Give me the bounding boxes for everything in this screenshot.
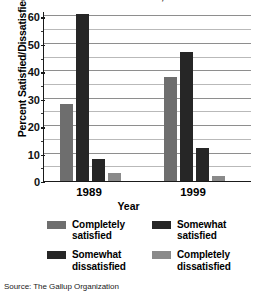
y-tick-label: 30 (12, 95, 40, 106)
legend-item[interactable]: Somewhatdissatisfied (47, 249, 140, 271)
bar (212, 176, 225, 181)
legend-swatch-icon (152, 251, 171, 259)
y-tick-label: 50 (12, 40, 40, 51)
y-tick-label: 60 (12, 12, 40, 23)
legend-swatch-icon (152, 221, 171, 229)
legend-label: Completelysatisfied (72, 219, 125, 241)
chart-title: Percent Satisfied/Dissatisfied, 1989 vs.… (0, 0, 257, 2)
bar (196, 148, 209, 181)
legend-item[interactable]: Completelysatisfied (47, 219, 140, 241)
bar (92, 159, 105, 181)
chart-figure: Percent Satisfied/Dissatisfied, 1989 vs.… (0, 0, 257, 298)
y-tick-label: 20 (12, 122, 40, 133)
y-tick-label: 10 (12, 150, 40, 161)
bar (108, 173, 121, 181)
legend-swatch-icon (47, 251, 66, 259)
legend-label: Completelydissatisfied (177, 249, 231, 271)
y-tick-label: 0 (12, 177, 40, 188)
bar (76, 14, 89, 181)
x-axis-group-label: 1989 (59, 186, 119, 198)
y-tick-label: 40 (12, 67, 40, 78)
bar (60, 104, 73, 181)
legend-swatch-icon (47, 221, 66, 229)
source-note: Source: The Gallup Organization (4, 282, 119, 291)
legend-label: Somewhatdissatisfied (72, 249, 126, 271)
chart-legend: CompletelysatisfiedSomewhatsatisfiedSome… (47, 219, 245, 272)
bar (164, 77, 177, 181)
x-axis-group-label: 1999 (163, 186, 223, 198)
y-tick-mark (41, 182, 45, 183)
legend-item[interactable]: Completelydissatisfied (152, 249, 245, 271)
x-axis-label: Year (0, 200, 257, 212)
bar (180, 52, 193, 181)
legend-item[interactable]: Somewhatsatisfied (152, 219, 245, 241)
plot-area (43, 12, 251, 182)
legend-label: Somewhatsatisfied (177, 219, 226, 241)
